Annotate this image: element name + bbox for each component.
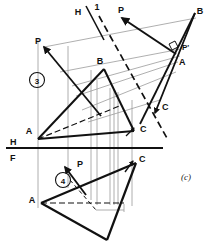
label-p-top-center: P [118, 5, 124, 15]
label-a-top-view: A [26, 126, 33, 136]
label-a-front-view: A [29, 195, 36, 205]
label-fold-h1-1: 1 [94, 2, 99, 12]
label-c-front-view: C [139, 154, 146, 164]
descriptive-geometry-figure: 3 4 H 1 P B P' A C P B A C H F C P A (c) [0, 0, 205, 244]
front-view-edge-ac [41, 163, 136, 203]
label-fold-f: F [10, 153, 16, 163]
transfer-line-1 [44, 18, 196, 47]
label-fold-h1-h: H [75, 7, 82, 17]
front-view-edge-ba [41, 203, 107, 240]
view-number-4-text: 4 [61, 177, 66, 186]
label-b-aux: B [197, 6, 204, 16]
label-c-aux: C [162, 102, 169, 112]
label-fold-h: H [10, 137, 17, 147]
top-view-triangle-group [38, 69, 134, 139]
label-p-prime-aux: P' [182, 43, 189, 52]
transfer-line-3 [72, 56, 180, 86]
label-c-top-view: C [140, 124, 147, 134]
top-view-edge-ca [38, 131, 134, 139]
front-view-triangle-group [41, 163, 136, 240]
label-p-front-view: P [77, 159, 83, 169]
view-number-3-group: 3 [30, 73, 45, 88]
view-number-3-text: 3 [35, 77, 40, 86]
label-a-aux: A [179, 57, 186, 67]
figure-canvas: 3 4 H 1 P B P' A C P B A C H F C P A (c) [0, 0, 205, 244]
label-b-top-view: B [97, 56, 104, 66]
figure-caption: (c) [181, 172, 191, 182]
label-p-upper-left: P [35, 36, 41, 46]
aux-edge-view-line [155, 13, 195, 113]
